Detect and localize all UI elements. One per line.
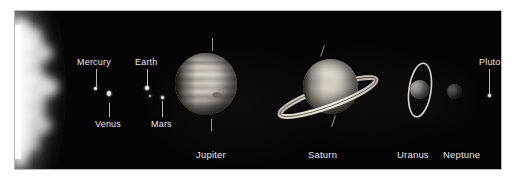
sun-limb-graphic (15, 11, 135, 170)
planet-saturn (303, 59, 358, 114)
jupiter-terminator (175, 53, 237, 115)
leader-mars (162, 101, 163, 117)
jupiter-pole-tick-top (212, 38, 213, 51)
label-mars: Mars (151, 119, 172, 129)
label-earth: Earth (135, 57, 158, 67)
planet-jupiter (175, 53, 237, 115)
photo-plate: Mercury Venus Earth Mars Jupiter (14, 10, 502, 170)
label-uranus: Uranus (397, 150, 429, 160)
planet-neptune (447, 84, 462, 99)
leader-pluto (489, 69, 490, 94)
label-saturn: Saturn (308, 150, 337, 160)
moon (149, 95, 151, 97)
planet-earth (145, 86, 149, 90)
planet-venus (107, 91, 111, 96)
solar-system-figure: Mercury Venus Earth Mars Jupiter (0, 0, 518, 187)
jupiter-pole-tick-bottom (211, 119, 212, 131)
label-pluto: Pluto (479, 57, 501, 67)
label-jupiter: Jupiter (196, 150, 226, 160)
planet-mercury (94, 87, 97, 90)
label-neptune: Neptune (443, 150, 480, 160)
sun-limb (15, 11, 135, 170)
planet-pluto (488, 94, 491, 97)
leader-mercury (96, 69, 97, 87)
leader-venus (109, 103, 110, 117)
saturn-terminator (303, 59, 358, 114)
leader-earth (147, 69, 148, 86)
planet-uranus (410, 80, 429, 99)
planet-mars (161, 96, 164, 99)
label-venus: Venus (95, 119, 121, 129)
label-mercury: Mercury (77, 57, 111, 67)
